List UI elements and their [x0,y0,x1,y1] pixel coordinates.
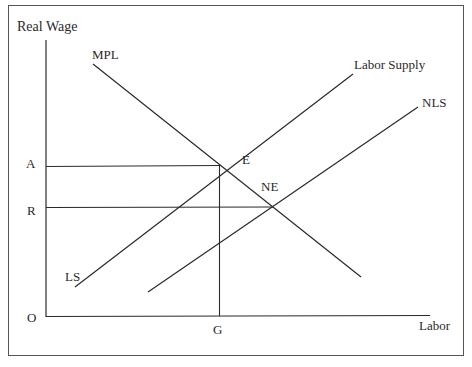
labor-supply-label: Labor Supply [354,58,425,71]
x-axis [46,316,430,317]
r-wage-line [46,207,273,208]
ne-point-label: NE [261,180,278,193]
x-axis-label: Labor [419,319,450,332]
e-point-label: E [242,153,250,166]
origin-label: O [27,311,36,324]
y-axis-label: Real Wage [17,20,77,34]
a-marker-label: A [26,157,35,170]
labor-market-diagram [0,0,472,367]
mpl-label: MPL [92,48,119,61]
r-marker-label: R [27,204,36,217]
a-wage-line [46,166,220,167]
nls-label: NLS [422,96,447,109]
g-marker-label: G [213,323,222,336]
ls-label: LS [65,270,80,283]
